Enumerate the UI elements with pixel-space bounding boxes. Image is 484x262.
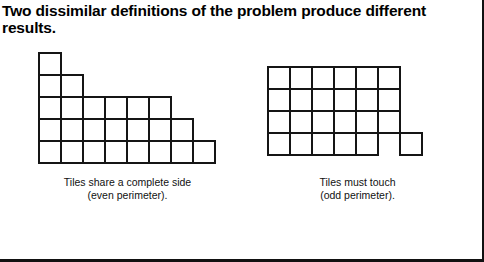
tile	[267, 66, 291, 90]
tile	[311, 110, 335, 134]
tile	[311, 66, 335, 90]
page-title: Two dissimilar definitions of the proble…	[2, 2, 442, 36]
tile	[104, 96, 128, 120]
tile	[126, 96, 150, 120]
tile-grid-odd-perimeter	[255, 48, 470, 174]
tile	[104, 118, 128, 142]
tile	[60, 140, 84, 164]
tile	[38, 74, 62, 98]
tile	[355, 132, 379, 156]
tile	[333, 88, 357, 112]
tile	[38, 52, 62, 76]
tile	[267, 88, 291, 112]
figure-even-perimeter: Tiles share a complete side (even perime…	[20, 48, 240, 174]
tile	[60, 74, 84, 98]
tile	[399, 132, 423, 156]
tile	[170, 118, 194, 142]
tile	[333, 110, 357, 134]
tile	[82, 118, 106, 142]
tile	[289, 132, 313, 156]
tile	[377, 66, 401, 90]
figure-odd-perimeter: Tiles must touch (odd perimeter).	[255, 48, 470, 174]
figure-caption-odd-perimeter: Tiles must touch (odd perimeter).	[255, 176, 460, 201]
tile	[355, 88, 379, 112]
tile	[355, 110, 379, 134]
tile-grid-even-perimeter	[20, 48, 240, 174]
tile	[148, 118, 172, 142]
tile	[170, 140, 194, 164]
tile	[82, 140, 106, 164]
tile	[377, 88, 401, 112]
tile	[38, 118, 62, 142]
tile	[311, 88, 335, 112]
tile	[289, 110, 313, 134]
tile	[311, 132, 335, 156]
tile	[60, 118, 84, 142]
tile	[289, 66, 313, 90]
tile	[267, 110, 291, 134]
tile	[192, 140, 216, 164]
tile	[126, 140, 150, 164]
tile	[60, 96, 84, 120]
tile	[333, 66, 357, 90]
tile	[82, 96, 106, 120]
figure-caption-even-perimeter: Tiles share a complete side (even perime…	[20, 176, 235, 201]
tile	[289, 88, 313, 112]
tile	[126, 118, 150, 142]
tile	[104, 140, 128, 164]
tile	[148, 140, 172, 164]
tile	[333, 132, 357, 156]
tile	[38, 140, 62, 164]
tile	[355, 66, 379, 90]
tile	[148, 96, 172, 120]
tile	[267, 132, 291, 156]
tile	[377, 110, 401, 134]
tile	[38, 96, 62, 120]
